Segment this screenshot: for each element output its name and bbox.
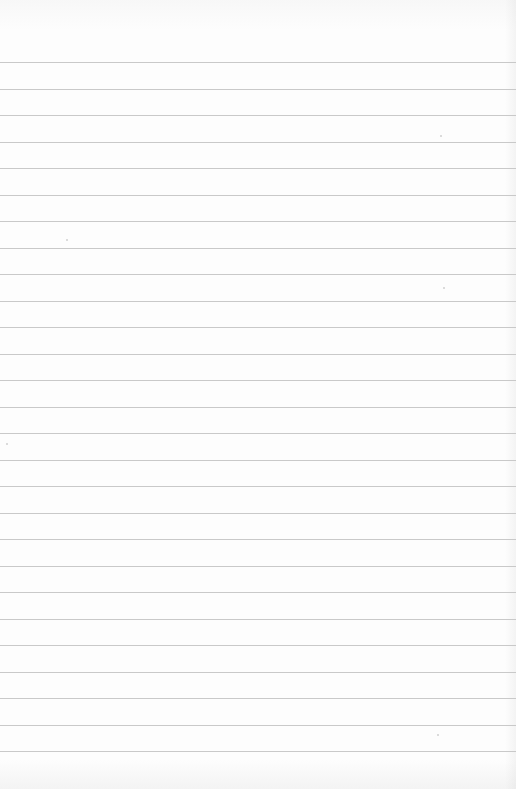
ruled-line — [0, 672, 516, 673]
ruled-line — [0, 566, 516, 567]
ruled-line — [0, 327, 516, 328]
ruled-line — [0, 592, 516, 593]
lined-paper-sheet — [0, 0, 516, 789]
paper-speck — [440, 135, 442, 137]
ruled-line — [0, 354, 516, 355]
paper-speck — [6, 443, 8, 445]
ruled-line — [0, 380, 516, 381]
ruled-line — [0, 168, 516, 169]
paper-speck — [437, 734, 439, 736]
ruled-line — [0, 645, 516, 646]
ruled-line — [0, 698, 516, 699]
ruled-line — [0, 274, 516, 275]
ruled-line — [0, 407, 516, 408]
paper-speck — [66, 239, 68, 241]
ruled-line — [0, 62, 516, 63]
ruled-line — [0, 486, 516, 487]
ruled-line — [0, 513, 516, 514]
ruled-line — [0, 221, 516, 222]
ruled-line — [0, 460, 516, 461]
ruled-line — [0, 619, 516, 620]
ruled-line — [0, 301, 516, 302]
ruled-line — [0, 751, 516, 752]
paper-speck — [443, 287, 445, 289]
ruled-line — [0, 89, 516, 90]
ruled-line — [0, 539, 516, 540]
ruled-line — [0, 248, 516, 249]
ruled-line — [0, 725, 516, 726]
ruled-line — [0, 142, 516, 143]
ruled-line — [0, 433, 516, 434]
ruled-line — [0, 195, 516, 196]
ruled-line — [0, 115, 516, 116]
